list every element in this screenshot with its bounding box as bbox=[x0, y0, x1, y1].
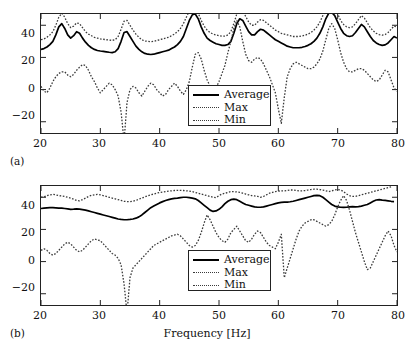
legend-key-average-solid-line bbox=[193, 255, 219, 265]
xtick-b-80: 80 bbox=[386, 309, 410, 322]
xtick-b-50: 50 bbox=[207, 309, 231, 322]
legend-label-max: Max bbox=[224, 267, 248, 279]
xtick-a-30: 30 bbox=[87, 137, 111, 150]
ytick-a-20: 20 bbox=[8, 54, 35, 67]
xtick-a-80: 80 bbox=[386, 137, 410, 150]
legend-row-max[interactable]: Max bbox=[193, 267, 265, 280]
legend-row-max[interactable]: Max bbox=[193, 102, 265, 115]
legend-key-average-solid-line bbox=[193, 90, 219, 100]
panel-label-a: (a) bbox=[10, 155, 24, 167]
panel-a: 40 20 0 −20 20 30 40 50 60 70 80 Average… bbox=[0, 0, 414, 175]
x-axis-title: Frequency [Hz] bbox=[0, 327, 414, 340]
ytick-b-20: 20 bbox=[8, 226, 35, 239]
xtick-a-20: 20 bbox=[28, 137, 52, 150]
legend-a[interactable]: Average Max Min bbox=[188, 85, 271, 126]
legend-label-min: Min bbox=[224, 279, 246, 291]
xtick-a-60: 60 bbox=[266, 137, 290, 150]
xtick-b-40: 40 bbox=[147, 309, 171, 322]
series-max bbox=[41, 187, 391, 202]
legend-row-min[interactable]: Min bbox=[193, 279, 265, 292]
figure-two-panel-spectrum: 40 20 0 −20 20 30 40 50 60 70 80 Average… bbox=[0, 0, 414, 350]
xtick-b-60: 60 bbox=[266, 309, 290, 322]
legend-label-max: Max bbox=[224, 102, 248, 114]
legend-b[interactable]: Average Max Min bbox=[188, 250, 271, 291]
legend-label-average: Average bbox=[224, 89, 270, 101]
xtick-b-70: 70 bbox=[326, 309, 350, 322]
ytick-a-minus20: −20 bbox=[4, 109, 35, 122]
legend-key-max-dotted-line bbox=[193, 103, 219, 113]
ytick-a-40: 40 bbox=[8, 27, 35, 40]
legend-key-min-dotted-line bbox=[193, 115, 219, 125]
legend-label-average: Average bbox=[224, 254, 270, 266]
xtick-b-20: 20 bbox=[28, 309, 52, 322]
legend-row-average[interactable]: Average bbox=[193, 254, 265, 267]
panel-b: 40 20 0 −20 20 30 40 50 60 70 80 Average… bbox=[0, 172, 414, 350]
xtick-b-30: 30 bbox=[87, 309, 111, 322]
legend-row-min[interactable]: Min bbox=[193, 114, 265, 127]
legend-key-min-dotted-line bbox=[193, 280, 219, 290]
series-average bbox=[41, 14, 397, 55]
xtick-a-70: 70 bbox=[326, 137, 350, 150]
ytick-b-minus20: −20 bbox=[4, 281, 35, 294]
legend-row-average[interactable]: Average bbox=[193, 89, 265, 102]
ytick-a-0: 0 bbox=[8, 82, 35, 95]
xtick-a-40: 40 bbox=[147, 137, 171, 150]
ytick-b-0: 0 bbox=[8, 254, 35, 267]
xtick-a-50: 50 bbox=[207, 137, 231, 150]
ytick-b-40: 40 bbox=[8, 199, 35, 212]
legend-label-min: Min bbox=[224, 114, 246, 126]
legend-key-max-dotted-line bbox=[193, 268, 219, 278]
